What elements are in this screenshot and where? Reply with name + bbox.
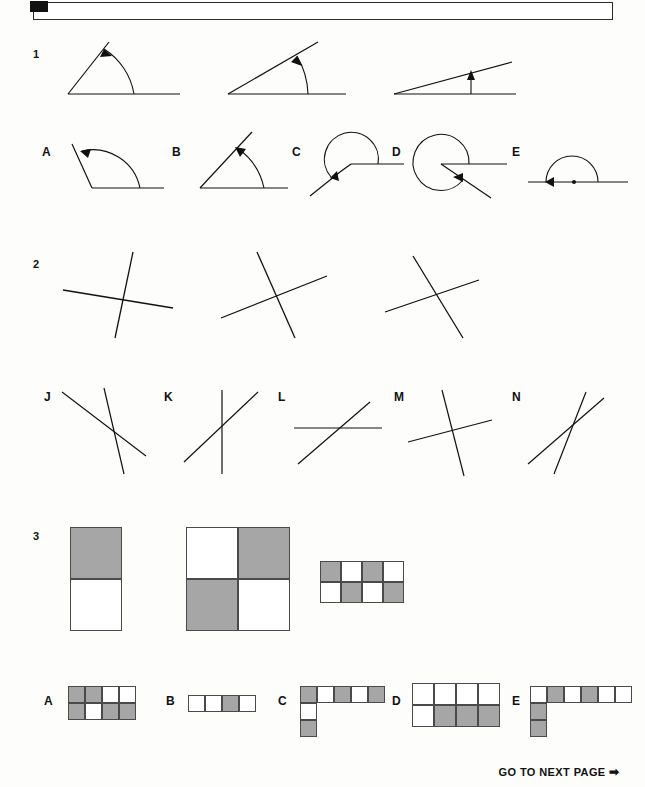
option-e-angle-figure[interactable] [524, 138, 634, 194]
grid-cell [300, 686, 317, 703]
option-a-angle-figure[interactable] [60, 140, 170, 195]
grid-cell-empty [564, 703, 581, 720]
grid-cell [239, 695, 256, 712]
go-to-next-page-label: GO TO NEXT PAGE➡ [499, 765, 619, 779]
option-c-grid-figure[interactable] [300, 686, 385, 737]
question-2-option-k-letter[interactable]: K [164, 390, 173, 404]
grid-cell [362, 561, 383, 582]
grid-cell-empty [351, 703, 368, 720]
grid-cell [70, 579, 122, 631]
question-3-option-d-letter[interactable]: D [392, 694, 401, 708]
grid-cell [341, 582, 362, 603]
grid-cell [85, 703, 102, 720]
grid-cell-empty [368, 703, 385, 720]
question-3-figure-1 [70, 527, 122, 631]
grid-cell-empty [351, 720, 368, 737]
option-d-grid-figure[interactable] [412, 683, 500, 727]
grid-cell-empty [317, 720, 334, 737]
grid-cell [530, 720, 547, 737]
option-b-angle-figure[interactable] [190, 130, 300, 196]
grid-cell [362, 582, 383, 603]
grid-cell [102, 686, 119, 703]
grid-cell [300, 720, 317, 737]
grid-cell [456, 705, 478, 727]
grid-cell [434, 683, 456, 705]
option-a-grid-figure[interactable] [68, 686, 136, 720]
right-arrow-icon: ➡ [609, 765, 619, 779]
grid-cell [478, 683, 500, 705]
question-1-number: 1 [33, 48, 39, 60]
grid-cell [412, 705, 434, 727]
grid-cell [119, 686, 136, 703]
question-1-option-b-letter[interactable]: B [172, 145, 181, 159]
option-m-lines-figure[interactable] [406, 386, 504, 478]
option-d-angle-figure[interactable] [405, 132, 520, 202]
question-1-figure-1 [60, 40, 190, 102]
grid-cell [434, 705, 456, 727]
question-1-option-e-letter[interactable]: E [512, 145, 520, 159]
grid-cell [222, 695, 239, 712]
option-e-grid-figure[interactable] [530, 686, 632, 737]
option-j-lines-figure[interactable] [58, 386, 156, 476]
grid-cell [188, 695, 205, 712]
grid-cell [615, 686, 632, 703]
grid-cell [205, 695, 222, 712]
question-2-option-m-letter[interactable]: M [394, 390, 404, 404]
option-c-angle-figure[interactable] [306, 134, 416, 200]
grid-cell-empty [581, 703, 598, 720]
question-1-figure-2 [222, 40, 357, 102]
grid-cell-empty [368, 720, 385, 737]
question-2-figure-1 [55, 250, 180, 340]
page-marker-square [30, 1, 48, 12]
grid-cell-empty [334, 720, 351, 737]
option-k-lines-figure[interactable] [178, 386, 276, 476]
grid-cell [530, 686, 547, 703]
grid-cell [547, 686, 564, 703]
option-n-lines-figure[interactable] [524, 386, 622, 478]
grid-cell [186, 579, 238, 631]
grid-cell [68, 686, 85, 703]
grid-cell [351, 686, 368, 703]
question-2-option-l-letter[interactable]: L [278, 390, 285, 404]
grid-cell [478, 705, 500, 727]
grid-cell [581, 686, 598, 703]
question-1-option-d-letter[interactable]: D [392, 145, 401, 159]
question-2-figure-3 [375, 250, 500, 340]
grid-cell-empty [581, 720, 598, 737]
question-2-option-j-letter[interactable]: J [44, 390, 51, 404]
grid-cell-empty [598, 720, 615, 737]
grid-cell-empty [334, 703, 351, 720]
grid-cell-empty [547, 703, 564, 720]
grid-cell [119, 703, 136, 720]
question-3-option-a-letter[interactable]: A [44, 694, 53, 708]
question-3-figure-2 [186, 527, 290, 631]
grid-cell [238, 579, 290, 631]
question-2-number: 2 [33, 258, 39, 270]
question-3-option-b-letter[interactable]: B [166, 694, 175, 708]
grid-cell [341, 561, 362, 582]
page-header-rule [33, 2, 613, 20]
question-3-option-c-letter[interactable]: C [278, 694, 287, 708]
grid-cell [68, 703, 85, 720]
question-2-option-n-letter[interactable]: N [512, 390, 521, 404]
grid-cell [186, 527, 238, 579]
grid-cell [102, 703, 119, 720]
grid-cell [598, 686, 615, 703]
grid-cell [412, 683, 434, 705]
footer-text: GO TO NEXT PAGE [499, 766, 606, 778]
option-l-lines-figure[interactable] [292, 386, 390, 476]
option-b-grid-figure[interactable] [188, 695, 256, 712]
grid-cell-empty [317, 703, 334, 720]
grid-cell [530, 703, 547, 720]
grid-cell-empty [615, 703, 632, 720]
question-3-option-e-letter[interactable]: E [512, 694, 520, 708]
grid-cell-empty [547, 720, 564, 737]
question-1-option-c-letter[interactable]: C [292, 145, 301, 159]
question-1-figure-3 [388, 40, 528, 102]
grid-cell [383, 561, 404, 582]
question-1-option-a-letter[interactable]: A [42, 145, 51, 159]
question-2-figure-2 [215, 250, 340, 340]
grid-cell [85, 686, 102, 703]
grid-cell [317, 686, 334, 703]
grid-cell [70, 527, 122, 579]
